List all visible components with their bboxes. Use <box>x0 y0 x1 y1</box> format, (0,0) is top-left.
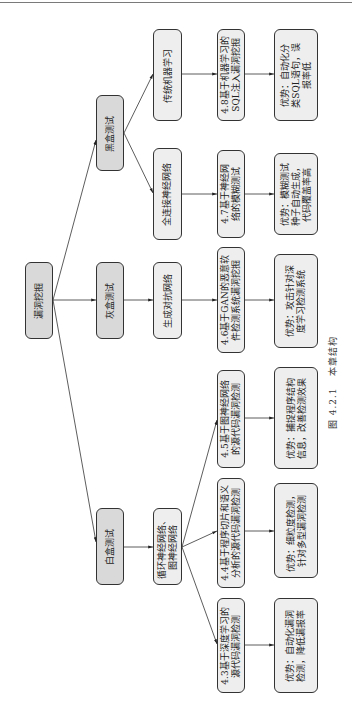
section-4-5-label: 4.5基于图神经网络 的源代码漏洞检测 <box>220 380 242 457</box>
section-4-8-label: 4.8基于机器学习的 SQL注入漏洞挖掘 <box>220 36 242 113</box>
section-4-7-label: 4.7基于神经网 络的模糊测试 <box>220 164 242 223</box>
advantage-4-7-label: 优势：模糊测试 种子自动生成， 代码覆盖率高 <box>280 163 313 226</box>
edge-rnn-4-5 <box>182 420 217 547</box>
advantage-4-4-label: 优势：细粒度检测， 针对多型漏洞检测 <box>285 490 307 571</box>
section-4-4-node: 4.4基于程序切片和语义 分析的源代码漏洞检测 <box>217 478 245 588</box>
rnn-gnn-node: 循环神经网络、 图神经网络 <box>153 508 182 585</box>
section-4-6-node: 4.6基于GAN的恶意软 件检测系统漏洞挖掘 <box>217 247 245 353</box>
section-4-6-label: 4.6基于GAN的恶意软 件检测系统漏洞挖掘 <box>220 255 242 345</box>
advantage-4-8-label: 优势：自动化分 类SQL语句，误 报率低 <box>280 43 313 108</box>
gan-label: 生成对抗网络 <box>162 274 173 328</box>
section-4-3-node: 4.3基于深度学习的 源代码漏洞检测 <box>217 598 245 693</box>
advantage-4-5-node: 优势：捕捉程序结构 信息，改善检测效果 <box>274 367 318 469</box>
advantage-4-6-node: 优势：攻击针对深 度学习检测系统 <box>274 254 318 348</box>
fully-connected-nn-node: 全连接神经网络 <box>153 148 182 240</box>
edge-rnn-4-3 <box>182 547 217 644</box>
section-4-5-node: 4.5基于图神经网络 的源代码漏洞检测 <box>217 370 245 468</box>
traditional-ml-node: 传统机器学习 <box>153 29 182 121</box>
edge-rnn-4-4 <box>182 531 217 547</box>
blackbox-testing-node: 黑盒测试 <box>96 95 124 171</box>
advantage-4-5-label: 优势：捕捉程序结构 信息，改善检测效果 <box>285 378 307 459</box>
figure-caption: 图 4.2.1 本章结构 <box>318 322 348 442</box>
root-node: 漏洞挖掘 <box>25 262 53 339</box>
advantage-4-3-label: 优势：自动化漏洞 检测，降低漏报率 <box>285 610 307 682</box>
edge-blackbox-ml <box>124 74 153 133</box>
advantage-4-7-node: 优势：模糊测试 种子自动生成， 代码覆盖率高 <box>274 153 318 235</box>
graybox-testing-label: 灰盒测试 <box>105 283 116 319</box>
advantage-4-8-node: 优势：自动化分 类SQL语句，误 报率低 <box>274 29 318 121</box>
edge-root-whitebox <box>53 300 96 542</box>
section-4-4-label: 4.4基于程序切片和语义 分析的源代码漏洞检测 <box>220 485 242 580</box>
edge-root-blackbox <box>53 140 96 300</box>
advantage-4-6-label: 优势：攻击针对深 度学习检测系统 <box>285 265 307 337</box>
section-4-7-node: 4.7基于神经网 络的模糊测试 <box>217 150 245 238</box>
whitebox-testing-label: 白盒测试 <box>105 529 116 565</box>
blackbox-testing-label: 黑盒测试 <box>105 115 116 151</box>
section-4-3-label: 4.3基于深度学习的 源代码漏洞检测 <box>220 607 242 684</box>
advantage-4-4-node: 优势：细粒度检测， 针对多型漏洞检测 <box>274 483 318 578</box>
rnn-gnn-label: 循环神经网络、 图神经网络 <box>157 515 179 578</box>
figure-caption-text: 图 4.2.1 本章结构 <box>327 335 340 428</box>
traditional-ml-label: 传统机器学习 <box>162 48 173 102</box>
edge-blackbox-fcnn <box>124 133 153 193</box>
graybox-testing-node: 灰盒测试 <box>96 262 124 339</box>
whitebox-testing-node: 白盒测试 <box>96 508 124 585</box>
advantage-4-3-node: 优势：自动化漏洞 检测，降低漏报率 <box>274 598 318 693</box>
section-4-8-node: 4.8基于机器学习的 SQL注入漏洞挖掘 <box>217 29 245 121</box>
fully-connected-nn-label: 全连接神经网络 <box>162 163 173 226</box>
gan-node: 生成对抗网络 <box>153 262 182 339</box>
root-node-label: 漏洞挖掘 <box>34 283 45 319</box>
